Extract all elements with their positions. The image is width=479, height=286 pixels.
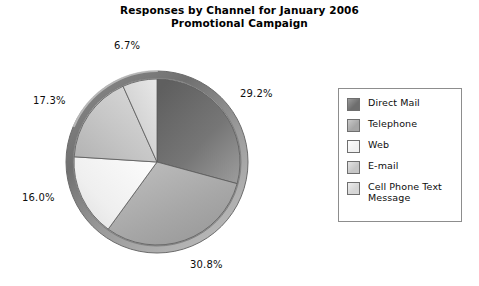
legend-label-web: Web xyxy=(368,139,389,150)
legend-item-email: E-mail xyxy=(347,160,455,174)
legend-label-cell-phone-text-message: Cell Phone Text Message xyxy=(368,181,455,203)
pct-label-telephone: 30.8% xyxy=(190,259,223,270)
pct-label-direct-mail: 29.2% xyxy=(240,88,273,99)
legend-label-email: E-mail xyxy=(368,160,398,171)
legend-swatch-web xyxy=(347,140,360,153)
chart-title-line-1: Responses by Channel for January 2006 xyxy=(0,4,479,17)
legend-item-web: Web xyxy=(347,139,455,153)
pie-slices xyxy=(74,79,240,245)
legend-swatch-cell-phone-text-message xyxy=(347,182,360,195)
pie-chart-svg xyxy=(62,66,254,260)
pct-label-web: 16.0% xyxy=(22,192,55,203)
pie-chart xyxy=(62,66,254,260)
legend-swatch-direct-mail xyxy=(347,98,360,111)
legend: Direct Mail Telephone Web E-mail Cell Ph… xyxy=(338,88,462,222)
legend-label-telephone: Telephone xyxy=(368,118,417,129)
legend-item-direct-mail: Direct Mail xyxy=(347,97,455,111)
legend-swatch-email xyxy=(347,161,360,174)
legend-item-telephone: Telephone xyxy=(347,118,455,132)
chart-title-line-2: Promotional Campaign xyxy=(0,17,479,30)
legend-swatch-telephone xyxy=(347,119,360,132)
pct-label-email: 17.3% xyxy=(33,95,66,106)
chart-title: Responses by Channel for January 2006 Pr… xyxy=(0,4,479,29)
pct-label-cell-phone-text-message: 6.7% xyxy=(114,40,140,51)
legend-label-direct-mail: Direct Mail xyxy=(368,97,420,108)
legend-item-cell-phone-text-message: Cell Phone Text Message xyxy=(347,181,455,203)
